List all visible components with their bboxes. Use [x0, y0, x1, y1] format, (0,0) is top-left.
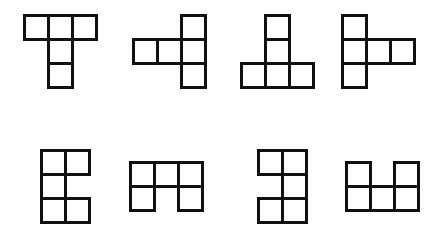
square-cell	[177, 185, 204, 212]
square-cell	[393, 185, 420, 212]
square-cell	[180, 38, 207, 65]
square-cell	[180, 62, 207, 89]
square-cell	[40, 173, 67, 200]
square-cell	[257, 149, 284, 176]
square-cell	[47, 38, 74, 65]
square-cell	[40, 149, 67, 176]
square-cell	[264, 14, 291, 41]
square-cell	[177, 161, 204, 188]
square-cell	[345, 161, 372, 188]
square-cell	[132, 38, 159, 65]
square-cell	[153, 161, 180, 188]
square-cell	[40, 197, 67, 224]
square-cell	[288, 62, 315, 89]
square-cell	[341, 14, 368, 41]
square-cell	[47, 62, 74, 89]
square-cell	[23, 14, 50, 41]
square-cell	[180, 14, 207, 41]
square-cell	[369, 185, 396, 212]
square-cell	[341, 62, 368, 89]
square-cell	[47, 14, 74, 41]
square-cell	[71, 14, 98, 41]
square-cell	[281, 197, 308, 224]
square-cell	[345, 185, 372, 212]
square-cell	[365, 38, 392, 65]
square-cell	[281, 173, 308, 200]
square-cell	[264, 62, 291, 89]
square-cell	[393, 161, 420, 188]
square-cell	[389, 38, 416, 65]
square-cell	[156, 38, 183, 65]
square-cell	[281, 149, 308, 176]
square-cell	[64, 197, 91, 224]
square-cell	[129, 161, 156, 188]
square-cell	[240, 62, 267, 89]
square-cell	[129, 185, 156, 212]
square-cell	[341, 38, 368, 65]
square-cell	[257, 197, 284, 224]
square-cell	[264, 38, 291, 65]
square-cell	[64, 149, 91, 176]
